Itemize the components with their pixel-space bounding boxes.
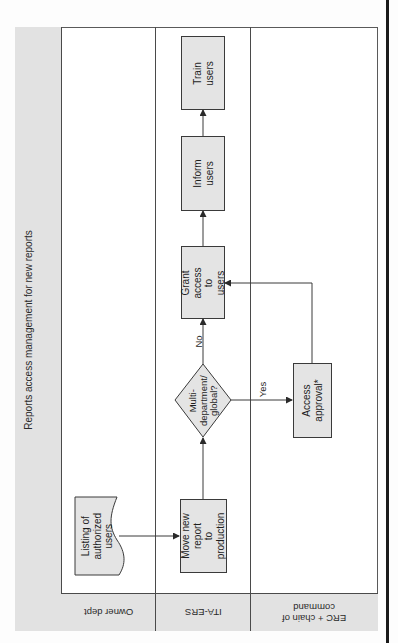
node-listing[interactable]: Listing of authorized users bbox=[75, 497, 119, 575]
diagram-canvas: Reports access management for new report… bbox=[0, 0, 398, 643]
lane-label-erc: ERC + chain of command bbox=[282, 602, 346, 624]
node-move-label: Move new report to production bbox=[181, 513, 227, 560]
node-approval-label: Access approval* bbox=[301, 379, 324, 421]
secondary-strip bbox=[41, 27, 62, 631]
node-decision[interactable]: Multi- department/ global? bbox=[175, 364, 231, 437]
lane-header-owner: Owner dept bbox=[61, 593, 156, 631]
lane-divider-2 bbox=[250, 27, 251, 631]
node-inform[interactable]: Inform users bbox=[181, 136, 225, 211]
node-grant-label: Grant access to users bbox=[180, 262, 226, 304]
node-decision-label: Multi- department/ global? bbox=[187, 375, 219, 426]
lane-label-itaers: ITA-ERS bbox=[185, 607, 222, 618]
page-edge-bar bbox=[386, 0, 389, 643]
node-train-label: Train users bbox=[192, 52, 215, 94]
node-train[interactable]: Train users bbox=[181, 36, 225, 110]
node-inform-label: Inform users bbox=[192, 153, 215, 195]
diagram-title: Reports access management for new report… bbox=[23, 230, 34, 430]
edge-label-no: No bbox=[191, 334, 205, 348]
lane-divider-1 bbox=[155, 27, 156, 631]
lane-label-owner: Owner dept bbox=[84, 607, 133, 618]
edge-label-no-text: No bbox=[193, 335, 204, 347]
lane-header-erc: ERC + chain of command bbox=[250, 593, 378, 631]
edge-label-yes: Yes bbox=[255, 381, 271, 397]
node-grant[interactable]: Grant access to users bbox=[181, 246, 225, 319]
node-move[interactable]: Move new report to production bbox=[180, 499, 227, 573]
edge-label-yes-text: Yes bbox=[258, 381, 269, 397]
lane-header-itaers: ITA-ERS bbox=[155, 593, 251, 631]
node-approval[interactable]: Access approval* bbox=[293, 363, 332, 438]
node-listing-label: Listing of authorized users bbox=[80, 513, 115, 560]
